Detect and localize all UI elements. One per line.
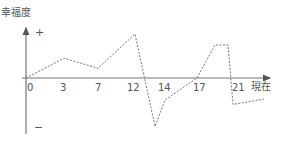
x-tick-21: 21 — [232, 83, 245, 93]
y-axis-title: 幸福度 — [1, 8, 31, 18]
x-tick-12: 12 — [127, 83, 140, 93]
positive-marker: + — [35, 27, 44, 38]
x-tick-14: 14 — [158, 83, 171, 93]
negative-marker: − — [34, 122, 43, 133]
x-tick-3: 3 — [60, 83, 66, 93]
x-tick-0: 0 — [27, 83, 33, 93]
happiness-line — [26, 34, 264, 126]
x-tick-17: 17 — [193, 83, 206, 93]
x-tick-7: 7 — [95, 83, 101, 93]
x-axis-title-now: 現在 — [251, 82, 271, 92]
